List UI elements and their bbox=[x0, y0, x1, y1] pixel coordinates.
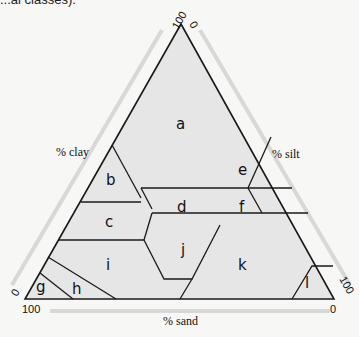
region-k-label: k bbox=[238, 256, 247, 274]
region-h-label: h bbox=[72, 280, 82, 298]
sand-end-tick: 100 bbox=[22, 303, 40, 315]
region-i-label: i bbox=[106, 256, 110, 274]
region-a-label: a bbox=[176, 115, 185, 133]
silt-axis-title: % silt bbox=[272, 147, 300, 161]
region-e-label: e bbox=[238, 161, 247, 179]
region-j-label: j bbox=[180, 241, 185, 259]
region-b-label: b bbox=[106, 171, 116, 189]
region-d-label: d bbox=[177, 198, 187, 216]
silt-end-tick: 100 bbox=[337, 274, 357, 296]
clay-end-tick: 100 bbox=[169, 9, 189, 31]
clay-start-tick: 0 bbox=[8, 287, 21, 298]
sand-start-tick: 0 bbox=[330, 303, 336, 315]
region-g-label: g bbox=[36, 278, 46, 296]
region-f-label: f bbox=[239, 198, 245, 216]
region-l-label: l bbox=[305, 274, 309, 292]
clay-axis-title: % clay bbox=[56, 145, 89, 159]
sand-axis-title: % sand bbox=[163, 314, 198, 328]
region-c-label: c bbox=[105, 213, 113, 231]
triangle-outline bbox=[25, 24, 334, 299]
silt-start-tick: 0 bbox=[187, 19, 200, 30]
soil-texture-triangle: a b c d e f g h i j k l % clay % silt % … bbox=[0, 0, 359, 337]
